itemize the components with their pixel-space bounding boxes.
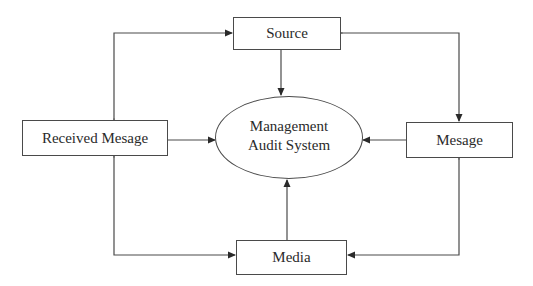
- edge-source-received: [114, 33, 232, 119]
- node-source: Source: [233, 17, 341, 50]
- node-received-message-label: Received Mesage: [42, 131, 148, 146]
- edge-received-media: [114, 157, 235, 255]
- node-message: Mesage: [406, 122, 513, 158]
- node-management-audit-system: Management Audit System: [215, 96, 363, 179]
- node-media-label: Media: [272, 250, 310, 265]
- core-label-line2: Audit System: [248, 136, 330, 155]
- node-message-label: Mesage: [436, 133, 483, 148]
- management-audit-diagram: Source Received Mesage Mesage Media Mana…: [0, 0, 533, 286]
- core-label-line1: Management: [250, 117, 328, 136]
- edge-source-message: [342, 33, 459, 121]
- edge-message-media: [348, 159, 459, 255]
- node-received-message: Received Mesage: [22, 120, 168, 156]
- node-media: Media: [236, 240, 347, 275]
- node-source-label: Source: [266, 26, 308, 41]
